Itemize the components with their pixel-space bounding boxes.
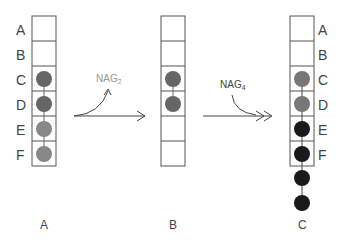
- svg-text:B: B: [318, 47, 327, 63]
- column-label-b: B: [169, 218, 177, 232]
- bead: [294, 121, 310, 137]
- bead: [165, 71, 181, 87]
- diagram: A B C D E F A NAG2 B NAG4: [0, 0, 345, 246]
- arrow-nag4: NAG4: [203, 79, 272, 121]
- svg-text:D: D: [318, 97, 328, 113]
- row-labels-left: A B C D E F: [16, 22, 26, 163]
- arrow-nag2: NAG2: [74, 73, 145, 121]
- column-label-a: A: [40, 218, 48, 232]
- svg-text:F: F: [318, 147, 327, 163]
- row-label-b: B: [16, 47, 25, 63]
- bead: [294, 146, 310, 162]
- svg-text:E: E: [318, 122, 327, 138]
- row-label-e: E: [16, 122, 25, 138]
- column-c: [290, 16, 314, 211]
- row-label-c: C: [16, 72, 26, 88]
- bead: [36, 71, 52, 87]
- svg-text:A: A: [318, 22, 328, 38]
- nag4-label: NAG4: [220, 79, 246, 91]
- row-label-d: D: [16, 97, 26, 113]
- row-label-a: A: [16, 22, 26, 38]
- bead: [36, 146, 52, 162]
- row-label-f: F: [16, 147, 25, 163]
- column-a: [32, 16, 56, 166]
- row-labels-right: A B C D E F: [318, 22, 328, 163]
- svg-text:C: C: [318, 72, 328, 88]
- bead: [165, 96, 181, 112]
- bead: [36, 96, 52, 112]
- bead: [294, 71, 310, 87]
- column-b: [161, 16, 185, 166]
- nag2-label: NAG2: [96, 73, 122, 85]
- bead: [294, 96, 310, 112]
- bead: [36, 121, 52, 137]
- column-label-c: C: [298, 218, 307, 232]
- bead: [294, 195, 310, 211]
- bead: [294, 170, 310, 186]
